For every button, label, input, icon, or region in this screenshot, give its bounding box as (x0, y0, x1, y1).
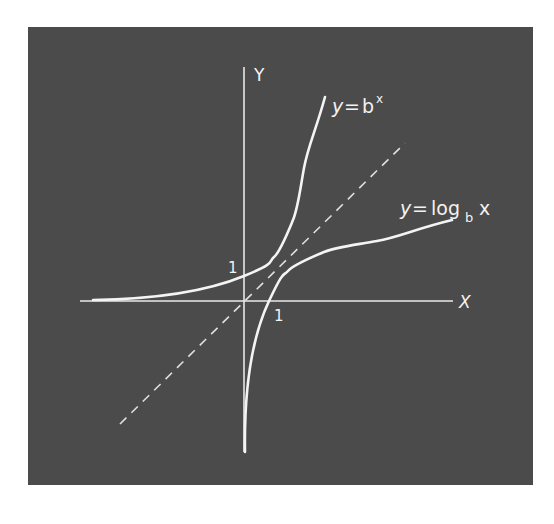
exp-base: b (362, 95, 374, 117)
log-base: b (465, 210, 473, 225)
log-y: y (399, 197, 412, 219)
log-word: log (431, 197, 460, 219)
y-axis-label: Y (253, 65, 265, 85)
x-axis-label: X (458, 292, 471, 312)
exponential-label: y = b x (331, 92, 383, 117)
log-eq: = (412, 197, 428, 219)
exp-exponent: x (376, 92, 383, 106)
log-arg: x (479, 197, 490, 219)
exp-y: y (331, 95, 344, 117)
chart: Y X 1 1 y = b x y = log b x (0, 0, 554, 524)
exp-eq: = (344, 95, 360, 117)
x-tick-one: 1 (274, 307, 284, 325)
identity-line (120, 143, 405, 424)
y-tick-one: 1 (228, 259, 238, 277)
